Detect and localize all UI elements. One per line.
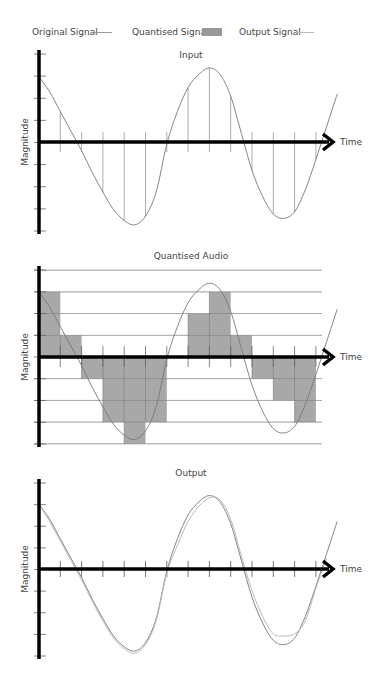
y-axis-label: Magnitude	[20, 545, 30, 593]
output-chart: Output Time Magnitude	[0, 0, 372, 679]
chart-title: Output	[175, 468, 207, 478]
output-signal-line	[39, 497, 327, 653]
x-axis-label: Time	[339, 564, 362, 574]
